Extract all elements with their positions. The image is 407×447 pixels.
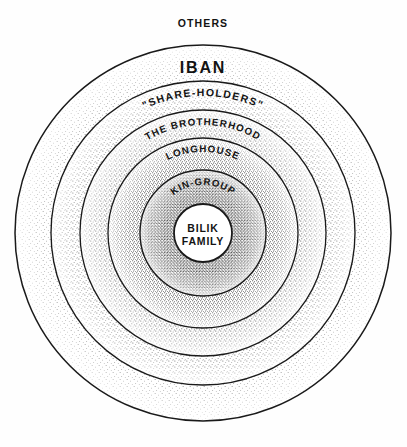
label-family: FAMILY <box>182 235 224 247</box>
label-iban: IBAN <box>180 59 226 76</box>
label-bilik: BILIK <box>187 222 218 234</box>
concentric-circles-diagram: OTHERS IBAN "SHARE-HOLDERS" THE BROTHERH… <box>0 0 407 447</box>
figure-root: OTHERS IBAN "SHARE-HOLDERS" THE BROTHERH… <box>0 0 407 447</box>
label-others: OTHERS <box>178 17 228 29</box>
